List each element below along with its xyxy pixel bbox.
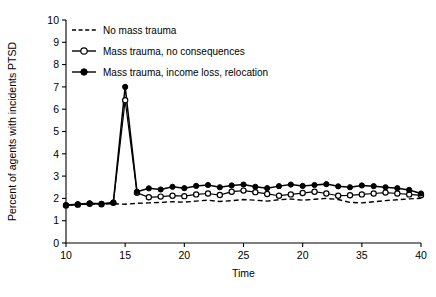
data-point bbox=[75, 202, 80, 207]
x-axis-tick-label: 20 bbox=[178, 249, 190, 261]
data-point bbox=[265, 191, 270, 196]
data-point bbox=[276, 184, 281, 189]
data-point bbox=[241, 188, 246, 193]
data-point bbox=[359, 192, 364, 197]
y-axis-title: Percent of agents with incidents PTSD bbox=[6, 41, 18, 221]
y-axis-tick-label: 6 bbox=[53, 103, 59, 115]
x-axis-tick-label: 35 bbox=[356, 249, 368, 261]
data-point bbox=[99, 201, 104, 206]
data-point bbox=[347, 185, 352, 190]
data-point bbox=[194, 192, 199, 197]
data-point bbox=[217, 185, 222, 190]
data-point bbox=[229, 189, 234, 194]
data-point bbox=[123, 98, 128, 103]
data-point bbox=[300, 190, 305, 195]
x-axis-title: Time bbox=[232, 267, 255, 279]
legend-item-label-2: Mass trauma, income loss, relocation bbox=[103, 67, 268, 78]
y-axis-tick-label: 0 bbox=[53, 237, 59, 249]
data-point bbox=[158, 194, 163, 199]
series-line-0 bbox=[66, 198, 421, 205]
data-point bbox=[288, 182, 293, 187]
data-point bbox=[123, 84, 128, 89]
x-axis-tick-label: 20 bbox=[297, 249, 309, 261]
data-point bbox=[146, 186, 151, 191]
y-axis-tick-label: 4 bbox=[53, 148, 59, 160]
data-point bbox=[300, 183, 305, 188]
data-point bbox=[182, 186, 187, 191]
data-point bbox=[194, 183, 199, 188]
y-axis-tick-label: 8 bbox=[53, 58, 59, 70]
data-point bbox=[383, 190, 388, 195]
data-point bbox=[111, 200, 116, 205]
y-axis-tick-label: 2 bbox=[53, 192, 59, 204]
data-point bbox=[134, 189, 139, 194]
data-point bbox=[418, 191, 423, 196]
data-point bbox=[312, 189, 317, 194]
data-point bbox=[395, 186, 400, 191]
data-point bbox=[336, 193, 341, 198]
legend-item-label-0: No mass trauma bbox=[103, 25, 177, 36]
data-point bbox=[359, 183, 364, 188]
data-point bbox=[217, 192, 222, 197]
x-axis-tick-label: 10 bbox=[60, 249, 72, 261]
data-point bbox=[265, 186, 270, 191]
data-point bbox=[170, 193, 175, 198]
legend-marker-filled-circle-icon bbox=[81, 69, 87, 75]
x-axis-tick-label: 15 bbox=[119, 249, 131, 261]
y-axis-tick-label: 9 bbox=[53, 36, 59, 48]
data-point bbox=[395, 191, 400, 196]
x-axis-tick-label: 40 bbox=[415, 249, 427, 261]
chart-canvas: 01234567891010152025203540TimePercent of… bbox=[0, 0, 436, 297]
data-point bbox=[170, 184, 175, 189]
data-point bbox=[182, 194, 187, 199]
data-point bbox=[336, 184, 341, 189]
x-axis-tick-label: 25 bbox=[238, 249, 250, 261]
y-axis-tick-label: 1 bbox=[53, 214, 59, 226]
data-point bbox=[312, 182, 317, 187]
data-point bbox=[241, 182, 246, 187]
data-point bbox=[87, 201, 92, 206]
y-axis-tick-label: 5 bbox=[53, 125, 59, 137]
data-point bbox=[253, 184, 258, 189]
data-point bbox=[158, 187, 163, 192]
data-point bbox=[205, 191, 210, 196]
ptsd-line-chart: 01234567891010152025203540TimePercent of… bbox=[0, 0, 436, 297]
data-point bbox=[407, 187, 412, 192]
data-point bbox=[63, 202, 68, 207]
legend-marker-open-circle-icon bbox=[81, 48, 87, 54]
data-point bbox=[324, 182, 329, 187]
y-axis-tick-label: 3 bbox=[53, 170, 59, 182]
data-point bbox=[371, 184, 376, 189]
legend-item-label-1: Mass trauma, no consequences bbox=[103, 46, 245, 57]
data-point bbox=[253, 190, 258, 195]
data-point bbox=[205, 182, 210, 187]
data-point bbox=[288, 192, 293, 197]
data-point bbox=[276, 193, 281, 198]
y-axis-tick-label: 10 bbox=[47, 14, 59, 26]
data-point bbox=[324, 191, 329, 196]
data-point bbox=[371, 191, 376, 196]
data-point bbox=[383, 185, 388, 190]
data-point bbox=[229, 183, 234, 188]
data-point bbox=[146, 195, 151, 200]
y-axis-tick-label: 7 bbox=[53, 81, 59, 93]
data-point bbox=[347, 193, 352, 198]
